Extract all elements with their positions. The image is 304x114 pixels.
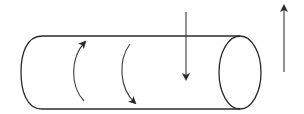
cylinder-end-ellipse bbox=[219, 36, 261, 109]
cylinder-left-arc bbox=[21, 36, 42, 109]
cylinder-diagram bbox=[0, 0, 304, 114]
rotation-arrow-down bbox=[122, 44, 135, 103]
cylinder-body bbox=[21, 36, 261, 109]
rotation-arrow-up bbox=[74, 42, 85, 101]
